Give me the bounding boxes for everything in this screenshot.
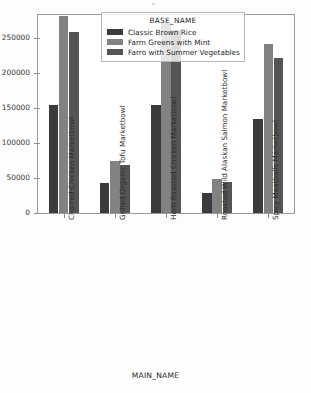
legend-label: Farm Greens with Mint	[128, 38, 210, 47]
y-tick-mark	[34, 38, 40, 39]
chart-figure: 050000100000150000200000250000 Charred C…	[0, 0, 311, 393]
bar[interactable]	[100, 183, 110, 213]
x-tick-mark	[64, 213, 65, 218]
bar-group	[38, 15, 89, 213]
x-axis-title: MAIN_NAME	[0, 371, 311, 380]
y-tick-mark	[34, 108, 40, 109]
legend-entry[interactable]: Classic Brown Rice	[107, 27, 239, 37]
legend-entry[interactable]: Farm Greens with Mint	[107, 37, 239, 47]
y-tick-mark	[34, 178, 40, 179]
y-tick-mark	[34, 213, 40, 214]
legend-label: Classic Brown Rice	[128, 28, 196, 37]
x-tick-label: Spicy Meatballs Marketbowl	[271, 120, 280, 220]
x-tick-mark	[217, 213, 218, 218]
x-tick-label: Charred Chicken Marketbowl	[67, 117, 76, 220]
bar-group	[243, 15, 294, 213]
y-tick-label: 0	[0, 209, 30, 217]
y-tick-mark	[34, 73, 40, 74]
y-tick-label: 50000	[0, 174, 30, 182]
bar[interactable]	[49, 105, 59, 213]
chart-legend[interactable]: BASE_NAME Classic Brown RiceFarm Greens …	[101, 12, 245, 62]
legend-swatch-icon	[107, 49, 123, 55]
y-tick-mark	[34, 143, 40, 144]
y-tick-label: 200000	[0, 69, 30, 77]
y-tick-label: 150000	[0, 104, 30, 112]
legend-swatch-icon	[107, 29, 123, 35]
figure-top-marker	[152, 3, 155, 5]
x-tick-label: Roasted Wild Alaskan Salmon Marketbowl	[220, 70, 229, 220]
legend-swatch-icon	[107, 39, 123, 45]
x-tick-mark	[166, 213, 167, 218]
x-tick-label: Herb Roasted Chicken Marketbowl	[169, 97, 178, 220]
legend-entries: Classic Brown RiceFarm Greens with MintF…	[107, 27, 239, 57]
legend-title: BASE_NAME	[107, 16, 239, 25]
legend-entry[interactable]: Farro with Summer Vegetables	[107, 47, 239, 57]
x-tick-label: Grilled Organic Tofu Marketbowl	[118, 105, 127, 220]
legend-label: Farro with Summer Vegetables	[128, 48, 240, 57]
y-tick-label: 250000	[0, 34, 30, 42]
bar[interactable]	[151, 105, 161, 213]
y-tick-label: 100000	[0, 139, 30, 147]
x-tick-mark	[115, 213, 116, 218]
bar[interactable]	[202, 193, 212, 213]
bar[interactable]	[253, 119, 263, 213]
x-tick-mark	[268, 213, 269, 218]
